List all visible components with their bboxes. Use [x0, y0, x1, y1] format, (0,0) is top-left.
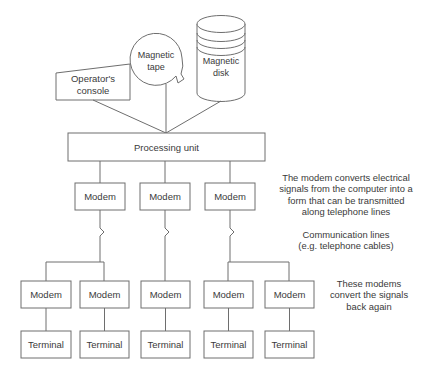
modem-top-2[interactable]: Modem [140, 183, 190, 210]
terminal-3[interactable]: Terminal [141, 331, 190, 358]
terminal-2[interactable]: Terminal [80, 331, 129, 358]
modem-bottom-5-label: Modem [274, 289, 306, 300]
connector-disk-to-processing-unit [166, 101, 221, 133]
processing-unit-node[interactable]: Processing unit [68, 133, 265, 161]
modem-bottom-2[interactable]: Modem [80, 281, 129, 308]
magnetic-disk-label-line2: disk [213, 68, 230, 78]
modem-top-3[interactable]: Modem [205, 183, 255, 210]
terminal-1[interactable]: Terminal [21, 331, 71, 358]
magnetic-tape-node[interactable]: Magnetic tape [130, 33, 184, 85]
processing-unit-label: Processing unit [134, 142, 199, 153]
modem-bottom-4[interactable]: Modem [204, 281, 253, 308]
terminal-1-label: Terminal [28, 339, 64, 350]
operator-console-node[interactable]: Operator's console [56, 64, 130, 100]
modem-bottom-3-label: Modem [150, 289, 182, 300]
comm-line-branch-1-left [46, 210, 104, 281]
diagram-canvas: Operator's console Magnetic tape Magneti… [0, 0, 425, 380]
modem-bottom-1-label: Modem [30, 289, 62, 300]
terminal-2-label: Terminal [87, 339, 123, 350]
magnetic-disk-node[interactable]: Magnetic disk [197, 16, 245, 102]
modem-top-3-label: Modem [214, 191, 246, 202]
modem-top-1[interactable]: Modem [75, 183, 125, 210]
modem-bottom-4-label: Modem [213, 289, 245, 300]
terminal-4[interactable]: Terminal [204, 331, 253, 358]
magnetic-tape-label-line2: tape [147, 62, 165, 72]
modem-bottom-5[interactable]: Modem [265, 281, 314, 308]
magnetic-disk-top-ellipse [197, 16, 245, 33]
modem-bottom-2-label: Modem [89, 289, 121, 300]
comm-line-branch-1-right [100, 262, 104, 281]
magnetic-disk-label-line1: Magnetic [203, 56, 240, 66]
comm-line-branch-3-right [230, 262, 289, 281]
operator-console-label-line1: Operator's [71, 73, 115, 84]
terminal-5-label: Terminal [272, 339, 308, 350]
modem-top-2-label: Modem [149, 191, 181, 202]
note-modem-converts-signals: The modem converts electrical signals fr… [268, 172, 424, 218]
comm-line-branch-2 [165, 210, 169, 281]
modem-top-1-label: Modem [84, 191, 116, 202]
connector-console-to-processing-unit [93, 100, 166, 133]
note-communication-lines: Communication lines (e.g. telephone cabl… [268, 229, 424, 252]
magnetic-tape-label-line1: Magnetic [138, 50, 175, 60]
operator-console-label-line2: console [77, 85, 110, 96]
terminal-5[interactable]: Terminal [265, 331, 314, 358]
terminal-4-label: Terminal [211, 339, 247, 350]
comm-line-branch-3-left [228, 210, 234, 281]
note-modems-convert-back: These modems convert the signals back ag… [315, 278, 423, 312]
modem-bottom-1[interactable]: Modem [21, 281, 71, 308]
terminal-3-label: Terminal [148, 339, 184, 350]
modem-bottom-3[interactable]: Modem [141, 281, 190, 308]
